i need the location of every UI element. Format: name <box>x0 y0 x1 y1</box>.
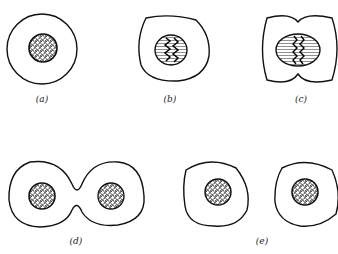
nucleus-a <box>29 34 57 62</box>
nucleus-e-left <box>205 179 231 205</box>
nucleus-c <box>276 34 320 66</box>
cell-division-diagram <box>0 0 338 254</box>
cell-e-right <box>275 162 338 226</box>
cell-e-left <box>184 162 248 226</box>
cell-a <box>7 14 77 84</box>
label-b: (b) <box>164 94 177 104</box>
cell-c <box>263 16 338 82</box>
label-d: (d) <box>70 236 83 246</box>
label-c: (c) <box>295 94 307 104</box>
nucleus-d-right <box>98 183 124 209</box>
cell-d <box>9 161 144 227</box>
label-a: (a) <box>36 94 48 104</box>
nucleus-b <box>155 35 187 65</box>
nucleus-d-left <box>29 183 55 209</box>
cell-b <box>139 16 209 81</box>
label-e: (e) <box>256 236 268 246</box>
nucleus-e-right <box>292 179 318 205</box>
